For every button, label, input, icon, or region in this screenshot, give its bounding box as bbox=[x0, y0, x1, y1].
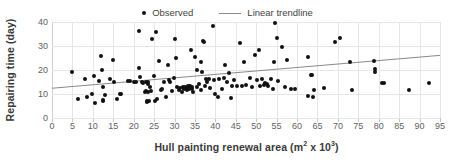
x-axis-title-part-1: Hull painting renewal area (m bbox=[154, 141, 303, 153]
data-point bbox=[97, 79, 101, 83]
x-tick-mark bbox=[113, 119, 114, 122]
data-point bbox=[137, 29, 141, 33]
data-point bbox=[271, 87, 275, 91]
data-point bbox=[134, 80, 138, 84]
x-tick-label: 80 bbox=[374, 122, 384, 131]
x-tick-mark bbox=[134, 119, 135, 122]
data-point bbox=[312, 88, 316, 92]
data-point bbox=[99, 54, 103, 58]
data-point bbox=[306, 94, 310, 98]
x-tick-label: 35 bbox=[190, 122, 200, 131]
data-point bbox=[253, 53, 257, 57]
legend-label-observed: Observed bbox=[152, 8, 193, 18]
x-tick-mark bbox=[379, 119, 380, 122]
data-point bbox=[154, 30, 158, 34]
data-point bbox=[90, 92, 94, 96]
x-tick-mark bbox=[154, 119, 155, 122]
data-point bbox=[427, 81, 431, 85]
gridline-vertical bbox=[440, 22, 441, 118]
data-point bbox=[275, 36, 279, 40]
data-point bbox=[193, 55, 197, 59]
y-axis-title: Repairing time (day) bbox=[4, 19, 16, 122]
x-tick-label: 40 bbox=[210, 122, 220, 131]
legend-dot-marker-icon bbox=[142, 11, 146, 15]
legend-entry-observed[interactable]: Observed bbox=[142, 8, 193, 18]
x-tick-mark bbox=[358, 119, 359, 122]
x-tick-mark bbox=[297, 119, 298, 122]
x-tick-mark bbox=[72, 119, 73, 122]
scatter-chart: Observed Linear trendline 010203040 0510… bbox=[0, 0, 455, 163]
data-point bbox=[191, 90, 195, 94]
data-point bbox=[220, 87, 224, 91]
x-tick-label: 5 bbox=[70, 122, 75, 131]
x-tick-label: 90 bbox=[415, 122, 425, 131]
x-axis-ticks: 05101520253035404550556065707580859095 bbox=[0, 122, 455, 134]
data-point bbox=[162, 80, 166, 84]
x-tick-label: 25 bbox=[149, 122, 159, 131]
gridline-horizontal bbox=[52, 118, 440, 119]
x-tick-label: 10 bbox=[88, 122, 98, 131]
data-point bbox=[101, 85, 105, 89]
legend-line-marker-icon bbox=[219, 13, 241, 14]
x-tick-label: 50 bbox=[251, 122, 261, 131]
data-point bbox=[100, 68, 104, 72]
data-point bbox=[269, 77, 273, 81]
x-tick-label: 60 bbox=[292, 122, 302, 131]
legend-entry-linear-trendline[interactable]: Linear trendline bbox=[219, 8, 313, 18]
data-point bbox=[229, 96, 233, 100]
data-point bbox=[207, 77, 211, 81]
x-tick-label: 55 bbox=[272, 122, 282, 131]
data-point bbox=[348, 60, 352, 64]
x-tick-mark bbox=[195, 119, 196, 122]
data-point bbox=[283, 85, 287, 89]
data-point bbox=[289, 87, 293, 91]
x-tick-mark bbox=[317, 119, 318, 122]
x-axis-title: Hull painting renewal area (m2 x 103) bbox=[52, 140, 441, 153]
x-tick-label: 15 bbox=[108, 122, 118, 131]
data-point bbox=[202, 40, 206, 44]
data-point bbox=[230, 84, 234, 88]
data-point bbox=[225, 80, 229, 84]
data-point bbox=[216, 95, 220, 99]
data-point bbox=[199, 88, 203, 92]
x-tick-label: 95 bbox=[435, 122, 445, 131]
x-tick-label: 65 bbox=[312, 122, 322, 131]
x-tick-label: 85 bbox=[394, 122, 404, 131]
data-point bbox=[115, 97, 119, 101]
data-point bbox=[148, 85, 152, 89]
legend-label-linear-trendline: Linear trendline bbox=[247, 8, 313, 18]
data-point bbox=[157, 59, 161, 63]
data-point bbox=[203, 84, 207, 88]
data-point bbox=[255, 78, 259, 82]
x-tick-label: 70 bbox=[333, 122, 343, 131]
x-tick-mark bbox=[420, 119, 421, 122]
x-tick-mark bbox=[277, 119, 278, 122]
data-point bbox=[242, 60, 246, 64]
plot-area bbox=[52, 22, 440, 118]
x-tick-label: 30 bbox=[170, 122, 180, 131]
x-tick-mark bbox=[399, 119, 400, 122]
data-point bbox=[76, 97, 80, 101]
data-point bbox=[338, 36, 342, 40]
x-tick-mark bbox=[215, 119, 216, 122]
data-point bbox=[170, 89, 174, 93]
chart-legend: Observed Linear trendline bbox=[0, 6, 455, 20]
data-point bbox=[250, 85, 254, 89]
x-tick-label: 75 bbox=[353, 122, 363, 131]
x-tick-mark bbox=[52, 119, 53, 122]
x-tick-mark bbox=[338, 119, 339, 122]
x-axis-title-part-2: x 10 bbox=[307, 141, 331, 153]
x-tick-mark bbox=[175, 119, 176, 122]
x-tick-label: 0 bbox=[49, 122, 54, 131]
data-point bbox=[155, 97, 159, 101]
linear-trendline bbox=[52, 22, 440, 118]
x-tick-label: 20 bbox=[129, 122, 139, 131]
x-tick-label: 45 bbox=[231, 122, 241, 131]
x-tick-mark bbox=[236, 119, 237, 122]
x-tick-mark bbox=[440, 119, 441, 122]
data-point bbox=[257, 48, 261, 52]
x-tick-mark bbox=[256, 119, 257, 122]
data-point bbox=[212, 78, 216, 82]
x-tick-mark bbox=[93, 119, 94, 122]
x-axis-title-part-3: ) bbox=[335, 141, 339, 153]
